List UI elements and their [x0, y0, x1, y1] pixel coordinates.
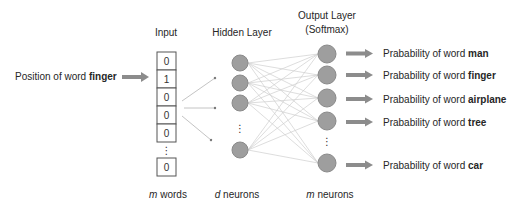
hidden-layer-header: Hidden Layer [212, 27, 272, 38]
arrow-right-icon [346, 49, 373, 58]
footer-text: neurons [220, 189, 259, 200]
output-footer: m neurons [306, 189, 353, 200]
input-label-prefix: Position of word [15, 71, 89, 82]
input-cell-value: 0 [164, 110, 170, 121]
hidden-neuron [232, 75, 248, 91]
output-neuron [318, 89, 336, 107]
output-neuron [318, 66, 336, 84]
input-header: Input [155, 27, 177, 38]
output-label-finger: Prabability of word finger [383, 70, 496, 81]
footer-text: neurons [315, 189, 354, 200]
arrow-right-icon [346, 118, 373, 127]
output-label-word: man [468, 48, 489, 59]
output-label-word: airplane [468, 94, 507, 105]
output-label-prefix: Prabability of word [383, 70, 468, 81]
output-neuron [318, 45, 336, 63]
hidden-layer: ⋮ [232, 55, 248, 158]
input-cell-value: 0 [164, 92, 170, 103]
output-layer: ⋮ [318, 45, 336, 172]
footer-text: words [157, 189, 186, 200]
output-label-word: finger [468, 70, 496, 81]
footer-var: m [306, 189, 314, 200]
arrow-right-icon [346, 71, 373, 80]
hidden-neuron [232, 142, 248, 158]
input-cell-value: 0 [164, 162, 170, 173]
output-neuron [318, 112, 336, 130]
output-label-tree: Prabability of word tree [383, 117, 487, 128]
softmax-header: (Softmax) [305, 24, 348, 35]
input-vector: 0 1 0 0 0 ⋮ 0 [157, 52, 176, 176]
input-arrow-icon [122, 72, 149, 82]
output-layer-header: Output Layer [298, 10, 356, 21]
output-label-word: tree [468, 117, 487, 128]
input-label-word: finger [89, 71, 117, 82]
input-footer: m words [149, 189, 187, 200]
output-arrows [346, 49, 373, 170]
output-label-car: Prabability of word car [383, 160, 483, 171]
footer-var: m [149, 189, 157, 200]
input-position-label: Position of word finger [15, 71, 117, 82]
output-ellipsis: ⋮ [322, 136, 332, 147]
hidden-neuron [232, 95, 248, 111]
output-label-man: Prabability of word man [383, 48, 489, 59]
output-label-word: car [468, 160, 483, 171]
arrow-right-icon [346, 161, 373, 170]
input-ellipsis: ⋮ [162, 145, 172, 156]
output-label-prefix: Prabability of word [383, 94, 468, 105]
input-cell-value: 0 [164, 128, 170, 139]
output-neuron [318, 154, 336, 172]
hidden-ellipsis: ⋮ [235, 123, 245, 134]
hidden-footer: d neurons [215, 189, 259, 200]
input-to-hidden-arrows [182, 78, 215, 140]
output-label-airplane: Prabability of word airplane [383, 94, 507, 105]
output-label-prefix: Prabability of word [383, 160, 468, 171]
hidden-to-output-edges [248, 54, 318, 163]
hidden-neuron [232, 55, 248, 71]
word2vec-network-diagram: Input Hidden Layer Output Layer (Softmax… [0, 0, 523, 207]
arrow-right-icon [346, 95, 373, 104]
input-cell-value: 1 [164, 74, 170, 85]
output-label-prefix: Prabability of word [383, 48, 468, 59]
input-cell-value: 0 [164, 56, 170, 67]
output-label-prefix: Prabability of word [383, 117, 468, 128]
